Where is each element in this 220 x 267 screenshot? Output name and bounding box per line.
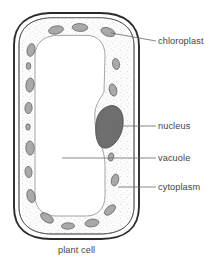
plant-cell-diagram: chloroplast nucleus vacuole cytoplasm pl… — [0, 0, 220, 267]
diagram-caption: plant cell — [58, 245, 95, 255]
chloroplast — [26, 63, 31, 70]
central-vacuole — [35, 35, 105, 216]
chloroplast — [61, 223, 74, 230]
label-nucleus: nucleus — [158, 121, 190, 131]
chloroplast — [72, 23, 88, 31]
chloroplast — [26, 124, 30, 130]
label-chloroplast: chloroplast — [158, 36, 204, 46]
label-cytoplasm: cytoplasm — [158, 182, 200, 192]
label-vacuole: vacuole — [158, 153, 190, 163]
